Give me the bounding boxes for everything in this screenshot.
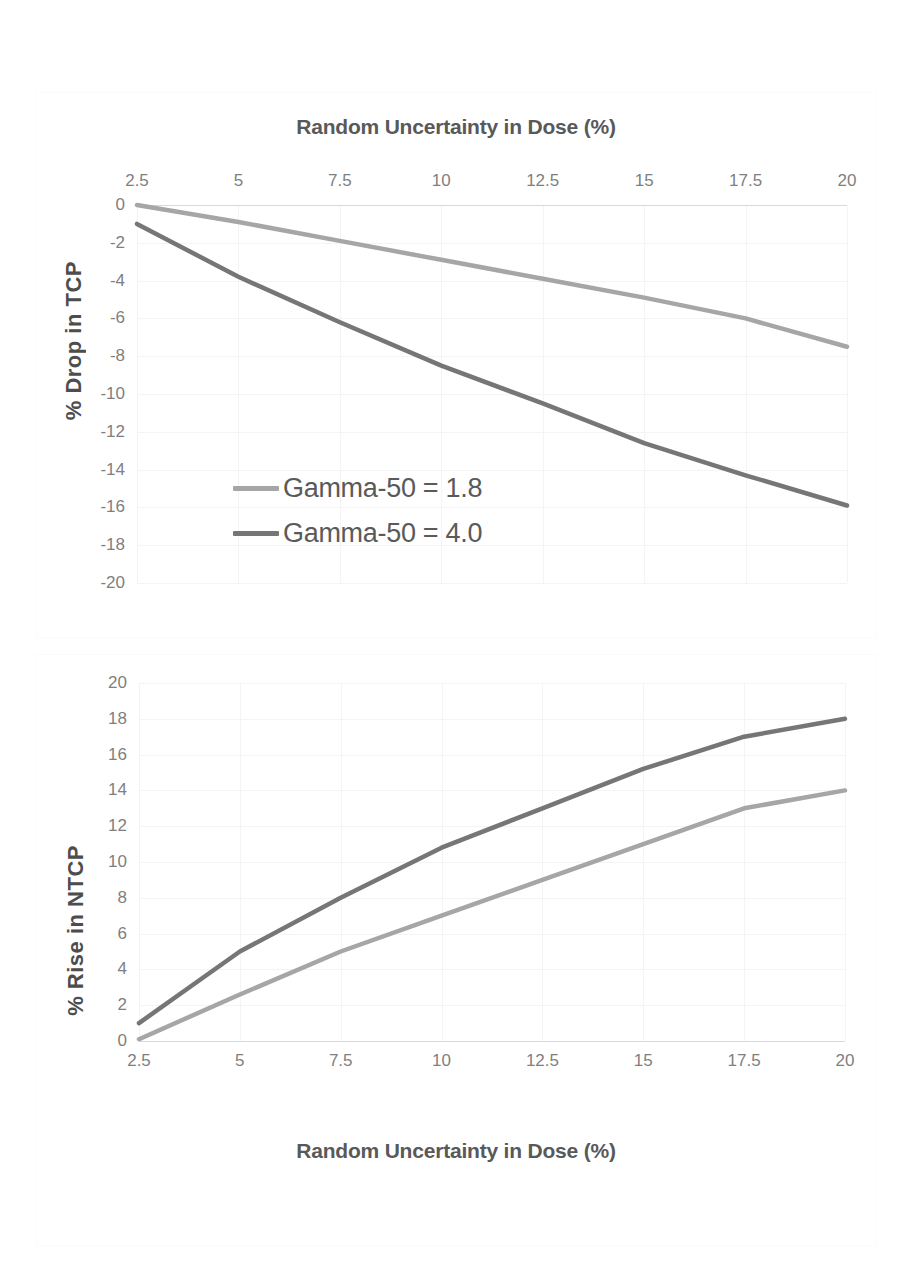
y-tick-label: 16 xyxy=(67,745,127,765)
chart-tcp-title: Random Uncertainty in Dose (%) xyxy=(37,115,875,139)
x-tick-label: 20 xyxy=(836,1051,855,1071)
x-axis-line xyxy=(139,1041,845,1042)
chart-ntcp-series-lines xyxy=(139,683,845,1041)
y-tick-label: -18 xyxy=(65,535,125,555)
chart-tcp-legend: Gamma-50 = 1.8 Gamma-50 = 4.0 xyxy=(233,473,482,563)
chart-ntcp: Random Uncertainty in Dose (%) % Rise in… xyxy=(36,654,876,1246)
legend-swatch-icon xyxy=(233,486,279,491)
gridline-horizontal xyxy=(137,583,847,584)
legend-label: Gamma-50 = 1.8 xyxy=(283,473,482,504)
x-tick-label: 15 xyxy=(634,1051,653,1071)
x-tick-label: 12.5 xyxy=(526,1051,559,1071)
gridline-vertical xyxy=(845,683,846,1041)
series-line xyxy=(139,719,845,1023)
y-tick-label: -2 xyxy=(65,233,125,253)
x-tick-label: 2.5 xyxy=(127,1051,151,1071)
figure-page: Random Uncertainty in Dose (%) % Drop in… xyxy=(0,0,908,1274)
legend-item: Gamma-50 = 1.8 xyxy=(233,473,482,504)
x-tick-label: 10 xyxy=(432,1051,451,1071)
legend-label: Gamma-50 = 4.0 xyxy=(283,518,482,549)
x-tick-label: 15 xyxy=(635,171,654,191)
y-tick-label: 10 xyxy=(67,852,127,872)
chart-tcp: Random Uncertainty in Dose (%) % Drop in… xyxy=(36,92,876,638)
y-tick-label: -20 xyxy=(65,573,125,593)
y-tick-label: 0 xyxy=(67,1031,127,1051)
series-line xyxy=(137,224,847,506)
legend-item: Gamma-50 = 4.0 xyxy=(233,518,482,549)
x-tick-label: 5 xyxy=(234,171,243,191)
y-tick-label: 18 xyxy=(67,709,127,729)
y-tick-label: 14 xyxy=(67,780,127,800)
y-tick-label: 6 xyxy=(67,924,127,944)
y-tick-label: -6 xyxy=(65,308,125,328)
y-tick-label: 20 xyxy=(67,673,127,693)
y-tick-label: -10 xyxy=(65,384,125,404)
y-tick-label: 12 xyxy=(67,816,127,836)
x-tick-label: 2.5 xyxy=(125,171,149,191)
series-line xyxy=(137,205,847,347)
x-tick-label: 10 xyxy=(432,171,451,191)
y-tick-label: 0 xyxy=(65,195,125,215)
y-tick-label: -14 xyxy=(65,460,125,480)
y-tick-label: 4 xyxy=(67,959,127,979)
y-tick-label: -16 xyxy=(65,497,125,517)
legend-swatch-icon xyxy=(233,531,279,536)
x-tick-label: 7.5 xyxy=(329,1051,353,1071)
x-tick-label: 12.5 xyxy=(526,171,559,191)
chart-ntcp-title: Random Uncertainty in Dose (%) xyxy=(37,1139,875,1163)
y-tick-label: -4 xyxy=(65,271,125,291)
y-tick-label: 2 xyxy=(67,995,127,1015)
chart-ntcp-plot-area: 20181614121086420 2.557.51012.51517.520 xyxy=(139,683,845,1041)
x-tick-label: 7.5 xyxy=(328,171,352,191)
y-tick-label: -12 xyxy=(65,422,125,442)
y-tick-label: -8 xyxy=(65,346,125,366)
x-tick-label: 5 xyxy=(235,1051,244,1071)
gridline-vertical xyxy=(847,205,848,583)
x-tick-label: 20 xyxy=(838,171,857,191)
x-tick-label: 17.5 xyxy=(729,171,762,191)
x-tick-label: 17.5 xyxy=(728,1051,761,1071)
y-tick-label: 8 xyxy=(67,888,127,908)
